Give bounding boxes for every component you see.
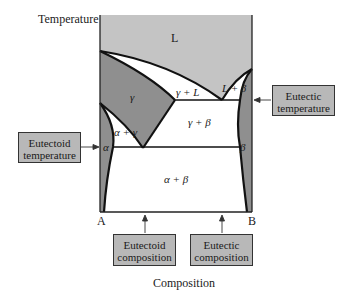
region-gamma-plus-liquid: γ + L <box>176 86 199 98</box>
arrowhead-icon <box>220 215 225 221</box>
callout-eutectoid-composition: Eutectoid composition <box>113 234 176 266</box>
arrowhead-icon <box>93 145 99 150</box>
callout-line: composition <box>191 251 252 263</box>
callout-line: Eutectoid <box>114 239 175 251</box>
callout-line: Eutectoid <box>19 137 80 149</box>
arrowhead-icon <box>143 215 148 221</box>
callout-eutectic-composition: Eutectic composition <box>190 234 253 266</box>
callout-eutectoid-temperature: Eutectoid temperature <box>18 132 81 163</box>
region-beta: β <box>240 141 245 153</box>
region-liquid: L <box>171 31 178 46</box>
region-alpha-plus-gamma: α + γ <box>114 126 137 138</box>
callout-line: composition <box>114 251 175 263</box>
region-alpha-plus-beta: α + β <box>164 173 188 185</box>
region-liquid-plus-beta: L + β <box>222 82 246 94</box>
component-b-label: B <box>248 214 256 229</box>
callout-line: temperature <box>19 149 80 161</box>
y-axis-label: Temperature <box>38 12 98 27</box>
callout-line: Eutectic <box>191 239 252 251</box>
callout-line: Eutectic <box>273 90 334 102</box>
component-a-label: A <box>97 214 106 229</box>
arrowhead-icon <box>254 98 260 103</box>
callout-eutectic-temperature: Eutectic temperature <box>272 85 335 116</box>
region-gamma: γ <box>130 91 134 103</box>
callout-line: temperature <box>273 102 334 114</box>
region-alpha: α <box>103 141 109 153</box>
x-axis-label: Composition <box>153 276 215 291</box>
region-gamma-plus-beta: γ + β <box>188 116 211 128</box>
